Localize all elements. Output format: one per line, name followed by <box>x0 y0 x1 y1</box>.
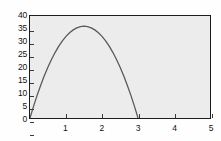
y-tick-mark <box>30 57 34 58</box>
y-axis: 0510152025303540 <box>0 0 27 141</box>
y-tick-mark <box>30 96 34 97</box>
x-tick-mark <box>102 114 103 118</box>
plot-area <box>29 15 211 119</box>
y-tick-mark <box>30 109 34 110</box>
curve-plot <box>30 16 210 118</box>
y-tick-label: 40 <box>1 11 27 20</box>
y-tick-label: 15 <box>1 76 27 85</box>
x-tick-mark <box>212 114 213 118</box>
x-tick-mark <box>66 114 67 118</box>
y-tick-label: 30 <box>1 37 27 46</box>
y-tick-mark <box>30 122 34 123</box>
x-tick-label: 5 <box>204 124 218 133</box>
x-tick-mark <box>175 114 176 118</box>
y-tick-label: 20 <box>1 63 27 72</box>
y-tick-label: 5 <box>1 102 27 111</box>
x-tick-label: 3 <box>131 124 145 133</box>
x-tick-label: 1 <box>58 124 72 133</box>
parabola-curve <box>30 26 138 118</box>
y-tick-label: 35 <box>1 24 27 33</box>
y-tick-mark <box>30 70 34 71</box>
x-tick-mark <box>139 114 140 118</box>
y-tick-label: 0 <box>1 115 27 124</box>
x-tick-label: 4 <box>168 124 182 133</box>
x-tick-label: 2 <box>95 124 109 133</box>
chart-container: 0510152025303540 12345 <box>0 0 221 141</box>
x-axis: 12345 <box>0 124 221 136</box>
y-tick-mark <box>30 31 34 32</box>
y-tick-mark <box>30 83 34 84</box>
y-tick-mark <box>30 44 34 45</box>
y-tick-label: 25 <box>1 50 27 59</box>
y-tick-label: 10 <box>1 89 27 98</box>
